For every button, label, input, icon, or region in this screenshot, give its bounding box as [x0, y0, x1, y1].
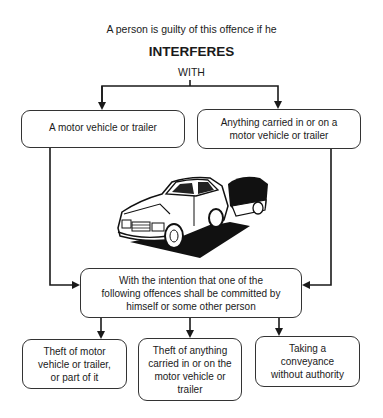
offence-line: Theft of anything: [153, 344, 228, 357]
intention-line: With the intention that one of the: [119, 274, 263, 287]
offence-theft-vehicle: Theft of motor vehicle or trailer, or pa…: [22, 339, 127, 389]
target-anything-carried: Anything carried in or on a motor vehicl…: [197, 109, 361, 149]
offence-line: vehicle or trailer,: [38, 358, 111, 371]
intention-line: following offences shall be committed by: [102, 287, 281, 300]
target-label-line: motor vehicle or trailer: [230, 129, 329, 142]
car-with-trailer-illustration: [110, 170, 270, 262]
offence-taking-conveyance: Taking a conveyance without authority: [255, 336, 360, 387]
offence-line: Taking a: [289, 342, 326, 355]
offence-line: or part of it: [51, 371, 99, 384]
offence-line: Theft of motor: [43, 345, 105, 358]
offence-line: motor vehicle or: [154, 370, 225, 383]
offence-line: carried in or on the: [148, 357, 231, 370]
target-motor-vehicle: A motor vehicle or trailer: [21, 110, 185, 148]
offence-theft-contents: Theft of anything carried in or on the m…: [138, 338, 242, 401]
offence-line: without authority: [271, 368, 344, 381]
offence-line: conveyance: [281, 355, 334, 368]
offence-line: trailer: [177, 383, 202, 396]
intention-line: himself or some other person: [126, 300, 256, 313]
target-label-line: A motor vehicle or trailer: [49, 121, 157, 134]
target-label-line: Anything carried in or on a: [221, 116, 338, 129]
intention-box: With the intention that one of the follo…: [80, 268, 302, 318]
